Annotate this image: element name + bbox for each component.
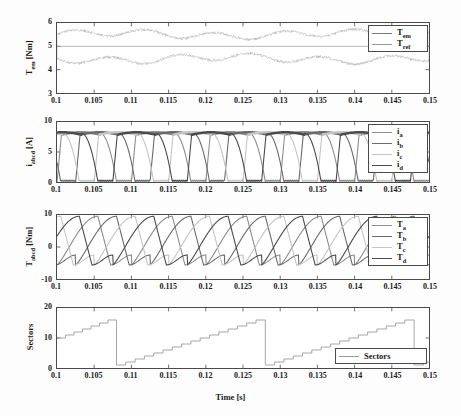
y-tick-label: 10 <box>22 333 52 342</box>
x-axis-label: Time [s] <box>0 392 461 402</box>
x-tick-label: 0.15 <box>408 371 452 380</box>
subplot-4: Sectors010200.10.1050.110.1150.120.1250.… <box>0 0 461 416</box>
figure-canvas: Tem [Nm]34560.10.1050.110.1150.120.1250.… <box>0 0 461 416</box>
legend-4[interactable]: Sectors <box>335 348 427 364</box>
legend-item[interactable]: Sectors <box>336 351 426 361</box>
legend-label: Sectors <box>364 352 390 361</box>
y-tick-label: 20 <box>22 302 52 311</box>
legend-line-icon <box>339 356 359 357</box>
